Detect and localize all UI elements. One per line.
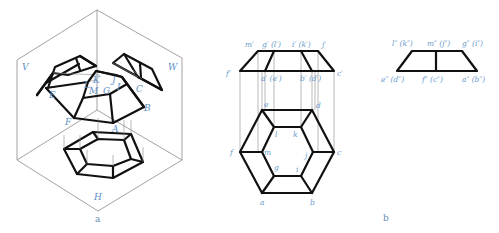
top-label-e: e: [264, 100, 269, 109]
top-label-l: l: [275, 130, 278, 139]
vertex-label-a: A: [111, 124, 119, 134]
top-label-g: g: [274, 163, 279, 172]
vertex-label-m: M: [88, 86, 99, 96]
front-label-j: j′: [320, 40, 326, 49]
vertex-label-g: G: [103, 86, 110, 96]
top-label-d: d: [316, 101, 321, 110]
caption-a: a: [95, 214, 101, 224]
front-label-i: i′ (k′): [292, 40, 311, 49]
projection-box: [17, 10, 182, 211]
front-label-b: b′ (d′): [300, 74, 321, 83]
front-label-m: m′: [245, 40, 254, 49]
box-outline: [17, 10, 182, 211]
top-label-i: i: [296, 165, 299, 174]
top-label-j: j: [303, 151, 308, 160]
side-label-l: l″ (k″): [392, 39, 413, 48]
front-trapezoid: [240, 51, 334, 71]
top-label-b: b: [310, 198, 315, 207]
h-inner-hexagon: [80, 139, 131, 166]
vertex-label-f: F: [64, 117, 72, 127]
top-label-m: m: [264, 148, 271, 157]
side-label-m: m″ (j″): [427, 39, 450, 48]
vertex-label-i: I: [116, 82, 121, 92]
top-label-a: a: [260, 198, 264, 207]
vertex-label-e: E: [48, 90, 56, 100]
front-view: [240, 51, 334, 71]
side-view: [397, 51, 477, 71]
plane-label-w: W: [168, 62, 178, 72]
vh-axis: [17, 110, 97, 160]
plane-label-v: V: [22, 62, 30, 72]
orthographic-projection-figure: V W H E F A B C K J I L M G a m′ g′ (l′)…: [0, 0, 499, 233]
front-label-a: a′ (e′): [261, 74, 282, 83]
h-plane-projection: [64, 118, 143, 178]
vertex-label-k: K: [92, 75, 101, 85]
vertex-label-b: B: [143, 103, 151, 113]
top-label-k: k: [293, 130, 298, 139]
front-label-c: c′: [337, 69, 343, 78]
side-label-f: f″ (c″): [421, 75, 443, 84]
side-label-g: g″ (i″): [462, 39, 483, 48]
top-label-f: f: [229, 148, 234, 157]
side-label-a: a″ (b″): [462, 75, 485, 84]
caption-b: b: [383, 213, 389, 223]
plane-label-h: H: [93, 192, 102, 202]
top-label-c: c: [337, 148, 342, 157]
front-label-f: f′: [225, 69, 231, 78]
vertex-label-c: C: [136, 84, 143, 94]
side-label-e: e″ (d″): [381, 75, 404, 84]
front-label-g: g′ (l′): [262, 40, 281, 49]
top-view: [240, 110, 334, 193]
